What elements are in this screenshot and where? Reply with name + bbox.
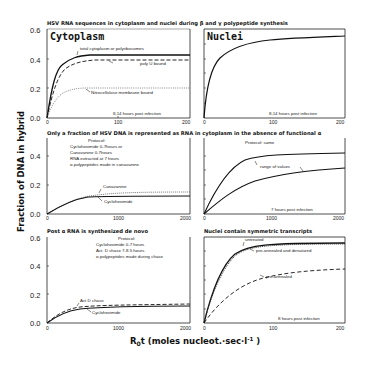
svg-text:0.4: 0.4: [30, 152, 40, 161]
panel-tag-cytoplasm: Cytoplasm: [50, 31, 104, 42]
panel-nuclei: Nuclei 0 100 200 8,14 hours post infecti…: [203, 29, 345, 125]
note-hours: 7 hours post infection: [271, 207, 313, 212]
svg-text:α polypeptides made during cha: α polypeptides made during chase: [96, 254, 164, 259]
svg-text:0: 0: [203, 325, 206, 331]
svg-text:0.2: 0.2: [30, 291, 40, 300]
panel-post-alpha: Post α RNA is synthesized de novo 0.6 0.…: [30, 228, 191, 331]
svg-text:Protocol:: Protocol:: [88, 138, 105, 143]
svg-text:200: 200: [336, 325, 345, 331]
svg-text:Protocol:: Protocol:: [118, 236, 135, 241]
svg-text:0: 0: [203, 215, 206, 221]
svg-text:Canavanine 0-7hours: Canavanine 0-7hours: [70, 150, 113, 155]
svg-text:0: 0: [203, 119, 206, 125]
label-pre-annealed: pre-annealed: [266, 274, 292, 279]
svg-text:Protocol: same: Protocol: same: [245, 140, 275, 145]
svg-text:0.2: 0.2: [30, 181, 40, 190]
svg-text:RNA extracted at 7 hours: RNA extracted at 7 hours: [70, 156, 120, 161]
svg-text:Cycloheximide 0-7hours or: Cycloheximide 0-7hours or: [70, 144, 123, 149]
label-cycloheximide: Cycloheximide: [92, 310, 121, 315]
svg-text:0.0: 0.0: [30, 210, 40, 219]
panel-title-middle: Only a fraction of HSV DNA is represente…: [47, 130, 322, 137]
panel-title-top: HSV RNA sequences in cytoplasm and nucle…: [47, 20, 288, 27]
label-pre-annealed-denatured: pre-annealed and denatured: [256, 248, 312, 253]
svg-text:0.4: 0.4: [30, 56, 40, 65]
svg-text:100: 100: [269, 119, 278, 125]
svg-text:2000: 2000: [180, 215, 191, 221]
panel-tag-nuclei: Nuclei: [207, 31, 243, 42]
panel-title-bottom-left: Post α RNA is synthesized de novo: [47, 228, 148, 235]
svg-text:2000: 2000: [333, 215, 344, 221]
note-hours: 8 hours post infection: [278, 316, 320, 321]
svg-text:1000: 1000: [266, 215, 277, 221]
svg-text:0.6: 0.6: [30, 26, 40, 35]
label-cycloheximide: Cycloheximide: [104, 199, 133, 204]
y-axis-label: Fraction of DNA in hybrid: [16, 111, 26, 232]
svg-text:0.6: 0.6: [30, 234, 40, 243]
svg-text:Cycloheximide 0-7 hours: Cycloheximide 0-7 hours: [96, 242, 145, 247]
label-poly-u: poly U bound: [140, 61, 166, 66]
label-canavanine: Canavanine: [103, 184, 127, 189]
panel-range: 0 1000 2000 Protocol: same range of valu…: [203, 138, 345, 221]
svg-text:200: 200: [182, 119, 191, 125]
svg-text:0.2: 0.2: [30, 85, 40, 94]
svg-text:0: 0: [46, 215, 49, 221]
svg-text:0.0: 0.0: [30, 114, 40, 123]
svg-text:0: 0: [46, 119, 49, 125]
svg-text:1000: 1000: [113, 325, 124, 331]
svg-text:1000: 1000: [113, 215, 124, 221]
label-act-d-chase: Act D chase: [80, 298, 104, 303]
panel-title-bottom-right: Nuclei contain symmetric transcripts: [204, 228, 312, 235]
label-total-cytoplasm: total cytoplasm or polyribosomes: [80, 46, 145, 51]
svg-text:0: 0: [46, 325, 49, 331]
figure: Fraction of DNA in hybrid R0t (moles nuc…: [0, 0, 365, 365]
panel-symmetric-transcripts: Nuclei contain symmetric transcripts 0 1…: [203, 228, 345, 331]
svg-text:α polypeptides made in canavan: α polypeptides made in canavanine: [70, 162, 139, 167]
label-range-of-values: range of values: [260, 164, 291, 169]
note-hours: 8,14 hours post infection: [113, 111, 161, 116]
label-untreated: untreated: [245, 237, 264, 242]
panel-cytoplasm: HSV RNA sequences in cytoplasm and nucle…: [30, 20, 288, 125]
svg-text:2000: 2000: [180, 325, 191, 331]
svg-text:0.4: 0.4: [30, 262, 40, 271]
note-hours: 8,14 hours post infection: [269, 111, 317, 116]
svg-text:0.0: 0.0: [30, 319, 40, 328]
svg-text:100: 100: [114, 119, 123, 125]
label-nitrocellulose: Nitrocellulose membrane bound: [91, 90, 154, 95]
svg-text:Act. D chase 7-8.5 hours: Act. D chase 7-8.5 hours: [96, 248, 145, 253]
x-axis-label: R0t (moles nucleot.·sec·l-1 ): [130, 336, 260, 347]
svg-text:100: 100: [269, 325, 278, 331]
svg-text:200: 200: [336, 119, 345, 125]
